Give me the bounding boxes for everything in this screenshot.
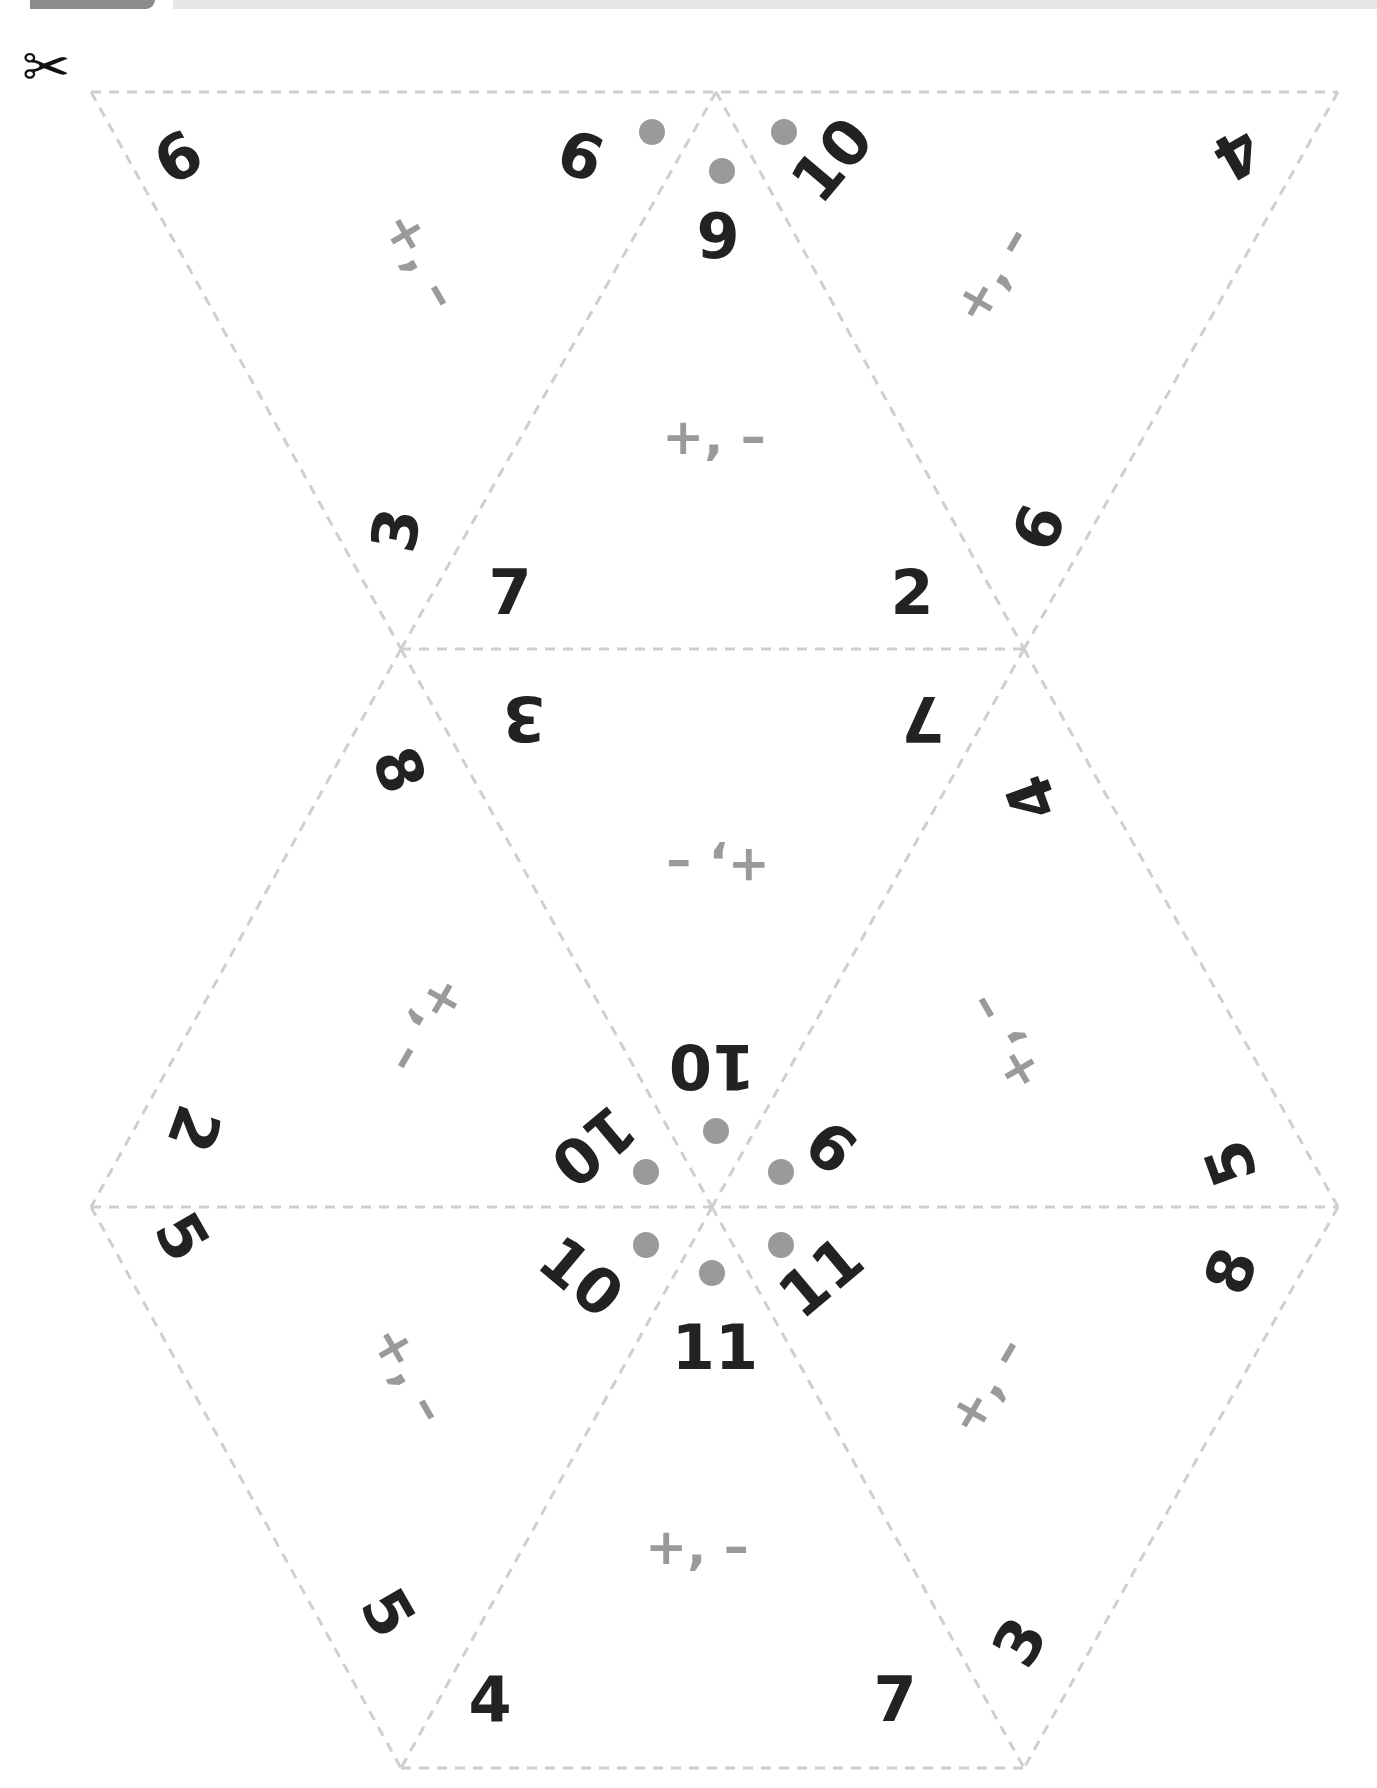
number-label: 9 (548, 112, 614, 195)
number-label: 9 (140, 114, 214, 199)
operation-label: +, – (662, 408, 765, 466)
number-label: 4 (990, 765, 1073, 831)
corner-dot (768, 1159, 794, 1185)
number-label: 7 (873, 1663, 916, 1736)
number-label: 3 (502, 682, 545, 755)
number-label: 10 (536, 1090, 649, 1201)
operation-label: +, – (666, 837, 769, 895)
triangle-net: +, –+, –+, –+, –+, –+, –+, –+, –+, – 999… (0, 0, 1377, 1788)
number-label: 7 (901, 682, 944, 755)
number-label: 3 (356, 502, 435, 557)
corner-dot (699, 1260, 725, 1286)
number-label: 10 (776, 103, 887, 216)
number-label: 8 (357, 737, 440, 803)
number-label: 5 (346, 1576, 431, 1650)
operation-label: +, – (645, 1518, 748, 1576)
number-label: 2 (890, 556, 933, 629)
number-label: 9 (696, 200, 739, 273)
number-label: 11 (672, 1311, 758, 1384)
number-label: 8 (1189, 1238, 1272, 1304)
operation-label: +, – (941, 215, 1043, 333)
corner-dot (703, 1118, 729, 1144)
number-label: 5 (140, 1200, 225, 1274)
number-label: 3 (978, 1605, 1063, 1679)
operation-label: +, – (935, 1326, 1037, 1444)
number-label: 9 (792, 1104, 872, 1188)
operation-label: +, – (377, 967, 479, 1085)
number-label: 10 (669, 1030, 755, 1103)
number-label: 5 (1189, 1130, 1272, 1196)
number-label: 4 (468, 1663, 511, 1736)
cut-lines (91, 92, 1338, 1768)
scissors-icon: ✂ (22, 38, 71, 96)
number-label: 10 (524, 1221, 637, 1332)
corner-dot (709, 158, 735, 184)
operation-label: +, – (952, 984, 1054, 1102)
number-labels: 999104372937841021095510111185473 (140, 103, 1274, 1735)
operation-label: +, – (359, 1315, 461, 1433)
corner-dot (639, 119, 665, 145)
number-label: 7 (488, 556, 531, 629)
number-label: 9 (995, 494, 1078, 560)
operation-label: +, – (371, 201, 473, 319)
corner-dot (633, 1159, 659, 1185)
corner-dot (771, 119, 797, 145)
number-label: 2 (152, 1096, 235, 1162)
corner-dot (633, 1232, 659, 1258)
number-label: 4 (1200, 112, 1274, 197)
